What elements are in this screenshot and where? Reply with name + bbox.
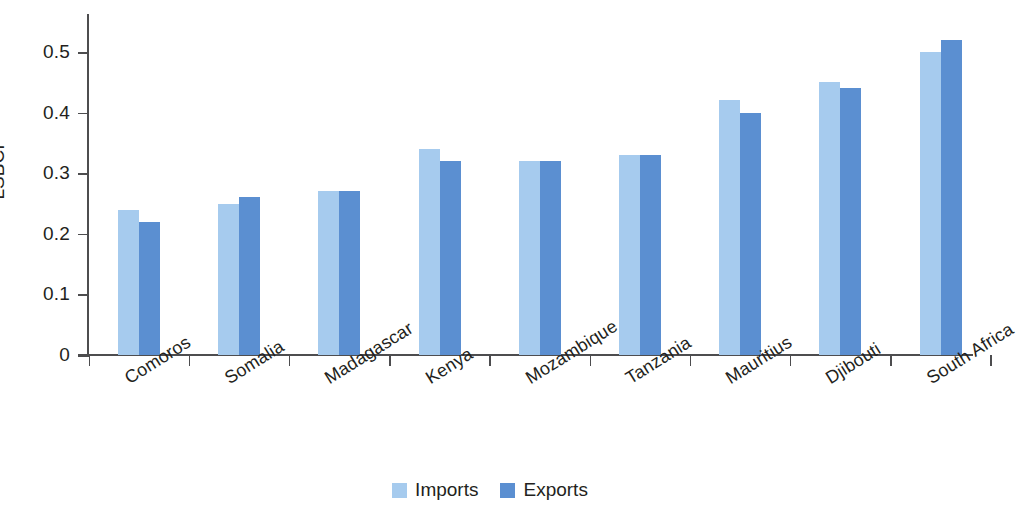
- x-axis-tick-mark: [990, 355, 992, 366]
- legend-item-imports[interactable]: Imports: [392, 479, 478, 501]
- bar-imports-mozambique: [519, 161, 540, 355]
- legend-label-exports: Exports: [523, 479, 587, 501]
- y-axis-tick-label: 0.3: [0, 162, 70, 184]
- legend-item-exports[interactable]: Exports: [500, 479, 587, 501]
- bar-exports-mozambique: [540, 161, 561, 355]
- bar-imports-kenya: [419, 149, 440, 355]
- bar-imports-comoros: [118, 210, 139, 355]
- bar-imports-djibouti: [819, 82, 840, 355]
- y-axis-tick-label: 0.4: [0, 102, 70, 124]
- bar-imports-mauritius: [719, 100, 740, 355]
- bar-group: [218, 18, 260, 355]
- bar-imports-tanzania: [619, 155, 640, 355]
- bar-imports-south-africa: [920, 52, 941, 355]
- bar-exports-kenya: [440, 161, 461, 355]
- x-axis-tick-mark: [890, 355, 892, 366]
- x-axis-tick-mark: [590, 355, 592, 366]
- bar-group: [719, 18, 761, 355]
- legend-swatch-exports: [500, 483, 515, 498]
- plot-area: [88, 18, 972, 355]
- legend-swatch-imports: [392, 483, 407, 498]
- x-axis-tick-mark: [389, 355, 391, 366]
- bar-group: [619, 18, 661, 355]
- y-axis-tick-label: 0.1: [0, 283, 70, 305]
- y-axis-tick-label: 0: [0, 344, 70, 366]
- y-axis-tick-label: 0.5: [0, 41, 70, 63]
- bar-group: [318, 18, 360, 355]
- x-axis-tick-mark: [189, 355, 191, 366]
- x-axis-tick-mark: [289, 355, 291, 366]
- chart-legend: ImportsExports: [0, 479, 980, 501]
- bar-exports-mauritius: [740, 113, 761, 355]
- bar-group: [118, 18, 160, 355]
- bar-imports-madagascar: [318, 191, 339, 355]
- bar-group: [519, 18, 561, 355]
- x-axis-tick-mark: [790, 355, 792, 366]
- bar-exports-tanzania: [640, 155, 661, 355]
- x-axis-tick-mark: [489, 355, 491, 366]
- bar-imports-somalia: [218, 204, 239, 356]
- bar-group: [419, 18, 461, 355]
- bar-group: [819, 18, 861, 355]
- bar-exports-south-africa: [941, 40, 962, 355]
- legend-label-imports: Imports: [415, 479, 478, 501]
- x-axis-tick-mark: [690, 355, 692, 366]
- bar-group: [920, 18, 962, 355]
- x-axis-tick-mark: [89, 355, 91, 366]
- y-axis-tick-label: 0.2: [0, 223, 70, 245]
- bar-exports-madagascar: [339, 191, 360, 355]
- bar-exports-comoros: [139, 222, 160, 355]
- bar-exports-somalia: [239, 197, 260, 355]
- bar-exports-djibouti: [840, 88, 861, 355]
